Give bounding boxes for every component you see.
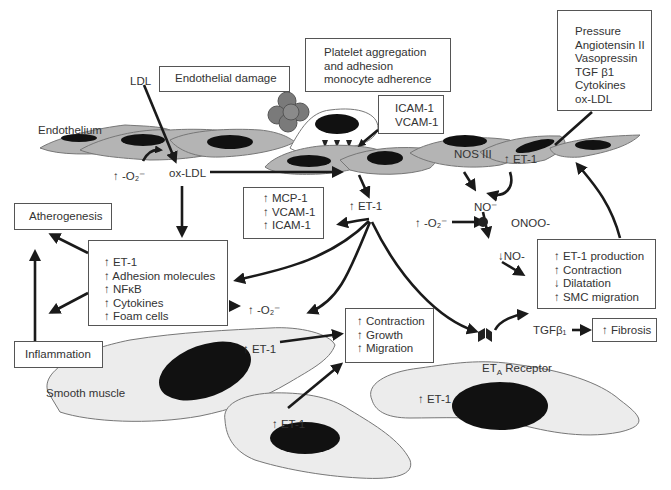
- box-line: and adhesion: [324, 60, 450, 74]
- box-line: monocyte adherence: [324, 73, 450, 87]
- box-line: TGF β1: [575, 66, 651, 80]
- stimuli-box: Pressure Angiotensin II Vasopressin TGF …: [557, 10, 652, 111]
- eta-receptor-icon: [478, 328, 492, 342]
- box-line: Cytokines: [575, 79, 651, 93]
- et1-smooth-muscle-left-label: ↑ ET-1: [243, 343, 276, 356]
- box-line: ↑ MCP-1: [263, 192, 323, 206]
- box-line: ox-LDL: [575, 93, 651, 107]
- et1-center-label: ↑ ET-1: [349, 200, 382, 213]
- mcp-box: ↑ MCP-1 ↑ VCAM-1 ↑ ICAM-1: [243, 187, 324, 239]
- box-line: ↑ NFκB: [104, 283, 227, 297]
- box-line: ICAM-1: [395, 102, 443, 116]
- inflammation-text: Inflammation: [25, 348, 91, 360]
- no-radical-label: NO⁻: [474, 201, 497, 214]
- box-line: ↓ Dilatation: [554, 277, 655, 291]
- tgf-label: TGFβ₁: [533, 324, 567, 337]
- box-line: ↑ VCAM-1: [263, 206, 323, 220]
- atherogenesis-box: Atherogenesis: [14, 203, 112, 230]
- box-line: Pressure: [575, 25, 651, 39]
- fibrosis-text: ↑ Fibrosis: [602, 324, 651, 336]
- box-line: ↑ Adhesion molecules: [104, 270, 227, 284]
- box-line: ↑ Contraction: [554, 264, 655, 278]
- et1-smooth-muscle-bottom-label: ↑ ET-1: [272, 418, 305, 431]
- box-line: ↑ Growth: [357, 329, 433, 343]
- junction-node: [478, 217, 488, 227]
- box-line: ↑ Contraction: [357, 315, 433, 329]
- superoxide-box-label: ↑ -O₂⁻: [248, 304, 280, 317]
- onoo-label: ONOO-: [511, 217, 550, 230]
- box-line: Vasopressin: [575, 52, 651, 66]
- box-line: ↑ Cytokines: [104, 297, 227, 311]
- eta-receptor-label: ETA Receptor: [482, 362, 552, 379]
- nos3-label: NOS III: [454, 148, 492, 161]
- contraction-box: ↑ Contraction ↑ Growth ↑ Migration: [345, 308, 434, 363]
- box-line: ↑ SMC migration: [554, 291, 655, 305]
- et1-endothelium-label: ↑ ET-1: [504, 153, 537, 166]
- ldl-label: LDL: [130, 75, 151, 88]
- inflammation-box: Inflammation: [14, 341, 103, 368]
- ox-ldl-label: ox-LDL: [169, 167, 206, 180]
- superoxide-mid-label: ↑ -O₂⁻: [415, 217, 447, 230]
- box-line: VCAM-1: [395, 116, 443, 130]
- fibrosis-box: ↑ Fibrosis: [592, 318, 657, 342]
- box-line: ↑ Migration: [357, 342, 433, 356]
- icam-vcam-box: ICAM-1 VCAM-1: [378, 95, 444, 134]
- box-line: ↑ ET-1 production: [554, 250, 655, 264]
- no-down-label: ↓NO-: [498, 250, 525, 263]
- box-line: ↑ ET-1: [104, 256, 227, 270]
- et1-production-box: ↑ ET-1 production ↑ Contraction ↓ Dilata…: [537, 239, 656, 309]
- box-line: ↑ Foam cells: [104, 310, 227, 324]
- et1-smooth-muscle-right-label: ↑ ET-1: [418, 393, 451, 406]
- diagram-canvas: Endothelial damage Platelet aggregation …: [0, 0, 671, 490]
- endothelial-damage-box: Endothelial damage: [159, 66, 290, 92]
- smooth-muscle-label: Smooth muscle: [46, 387, 125, 400]
- et1-effects-box: ↑ ET-1 ↑ Adhesion molecules ↑ NFκB ↑ Cyt…: [88, 240, 228, 326]
- platelet-cluster: [268, 92, 309, 132]
- endothelial-damage-text: Endothelial damage: [175, 72, 277, 84]
- endothelium-label: Endothelium: [38, 124, 102, 137]
- box-line: ↑ ICAM-1: [263, 219, 323, 233]
- platelet-aggregation-box: Platelet aggregation and adhesion monocy…: [305, 38, 451, 92]
- box-line: Platelet aggregation: [324, 46, 450, 60]
- superoxide-left-label: ↑ -O₂⁻: [113, 170, 145, 183]
- atherogenesis-text: Atherogenesis: [29, 210, 103, 222]
- box-line: Angiotensin II: [575, 39, 651, 53]
